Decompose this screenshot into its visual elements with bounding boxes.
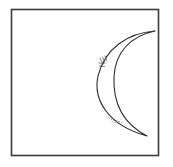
stipple-dot-8	[118, 123, 119, 124]
stipple-dot-11	[123, 123, 124, 124]
hatch-mark-3	[99, 63, 104, 64]
stipple-dot-0	[108, 117, 109, 118]
stipple-dot-1	[111, 119, 112, 120]
stipple-dot-3	[116, 120, 117, 121]
stipple-dot-10	[120, 119, 121, 120]
border-frame	[12, 10, 159, 156]
image-canvas: Crescent Moon Line Drawing waning cresce…	[0, 0, 173, 167]
stipple-dot-2	[113, 119, 114, 120]
stipple-dot-9	[107, 116, 108, 117]
hatch-mark-4	[100, 66, 105, 67]
stipple-dot-4	[118, 121, 119, 122]
stipple-dot-5	[121, 122, 122, 123]
stipple-dot-7	[115, 122, 116, 123]
crescent-moon-figure	[0, 0, 173, 167]
stipple-dot-6	[112, 121, 113, 122]
